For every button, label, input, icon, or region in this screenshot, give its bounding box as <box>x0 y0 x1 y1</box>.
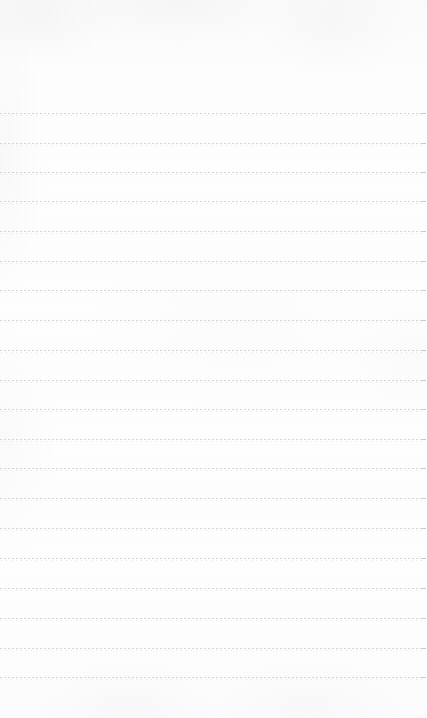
writing-line[interactable] <box>0 233 427 261</box>
writing-line[interactable] <box>0 263 427 290</box>
rule-line <box>0 320 426 321</box>
writing-line[interactable] <box>0 203 427 231</box>
rule-line <box>0 231 426 232</box>
rule-line <box>0 648 426 649</box>
writing-line[interactable] <box>0 145 427 172</box>
writing-line[interactable] <box>0 650 427 677</box>
writing-line[interactable] <box>0 292 427 320</box>
rule-line <box>0 528 426 529</box>
writing-line[interactable] <box>0 411 427 439</box>
rule-line <box>0 409 426 410</box>
page-footer-area[interactable] <box>0 678 427 718</box>
writing-line[interactable] <box>0 530 427 558</box>
rule-line <box>0 143 426 144</box>
rule-line <box>0 172 426 173</box>
rule-line <box>0 201 426 202</box>
writing-line[interactable] <box>0 174 427 201</box>
rule-line <box>0 468 426 469</box>
writing-line[interactable] <box>0 382 427 409</box>
writing-line[interactable] <box>0 352 427 380</box>
rule-line <box>0 439 426 440</box>
writing-line[interactable] <box>0 500 427 528</box>
writing-line[interactable] <box>0 560 427 588</box>
writing-line[interactable] <box>0 85 427 113</box>
rule-line <box>0 113 426 114</box>
notepad-page[interactable] <box>0 0 427 718</box>
writing-line[interactable] <box>0 322 427 350</box>
writing-line[interactable] <box>0 590 427 618</box>
rule-line <box>0 380 426 381</box>
writing-line[interactable] <box>0 470 427 498</box>
rule-line <box>0 350 426 351</box>
rule-line <box>0 290 426 291</box>
rule-line <box>0 558 426 559</box>
rule-line <box>0 261 426 262</box>
writing-line[interactable] <box>0 115 427 143</box>
rule-line <box>0 588 426 589</box>
writing-line[interactable] <box>0 620 427 648</box>
rule-line <box>0 498 426 499</box>
rule-line <box>0 618 426 619</box>
writing-line[interactable] <box>0 441 427 468</box>
